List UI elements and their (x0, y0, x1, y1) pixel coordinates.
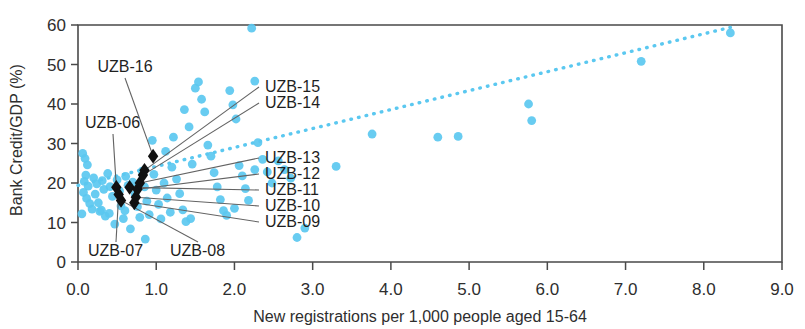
trend-line (78, 27, 730, 185)
data-point (175, 189, 184, 198)
data-point (368, 130, 377, 139)
data-point (185, 123, 194, 132)
data-point (135, 213, 144, 222)
scatter-chart: 0102030405060 0.01.02.03.04.05.06.07.08.… (0, 0, 805, 329)
annotation-uzb-08: UZB-08 (170, 242, 225, 259)
data-point (207, 152, 216, 161)
data-point (637, 57, 646, 66)
data-point (180, 105, 189, 114)
x-tick-label: 7.0 (614, 280, 638, 299)
y-tick-label: 60 (47, 16, 66, 35)
data-point (332, 162, 341, 171)
annotation-uzb-13: UZB-13 (265, 149, 320, 166)
data-point (98, 176, 107, 185)
data-point (197, 95, 206, 104)
y-tick-label: 20 (47, 174, 66, 193)
data-point (524, 100, 533, 109)
leader-line-uzb-11 (130, 187, 259, 190)
x-tick-label: 6.0 (536, 280, 560, 299)
data-point (433, 133, 442, 142)
data-point (94, 198, 103, 207)
data-point (163, 194, 172, 203)
data-point (247, 24, 256, 33)
data-point (91, 190, 100, 199)
chart-canvas: 0102030405060 0.01.02.03.04.05.06.07.08.… (0, 0, 805, 329)
data-point (167, 163, 176, 172)
y-tick-label: 10 (47, 214, 66, 233)
annotation-uzb-11: UZB-11 (265, 181, 319, 198)
annotation-uzb-06: UZB-06 (85, 114, 140, 131)
y-axis-ticks: 0102030405060 (47, 16, 78, 272)
annotation-uzb-16: UZB-16 (97, 58, 152, 75)
x-axis-ticks: 0.01.02.03.04.05.06.07.08.09.0 (66, 262, 794, 299)
data-point (105, 209, 114, 218)
leader-line-uzb-09 (134, 203, 259, 222)
data-point (210, 168, 219, 177)
y-tick-label: 0 (57, 253, 66, 272)
data-point (213, 183, 222, 192)
data-point (78, 209, 87, 218)
data-point (148, 136, 157, 145)
x-tick-label: 8.0 (692, 280, 716, 299)
annotation-uzb-15: UZB-15 (265, 78, 320, 95)
data-point (293, 233, 302, 242)
annotation-uzb-12: UZB-12 (265, 165, 320, 182)
data-point (244, 196, 253, 205)
data-point (121, 172, 130, 181)
data-point (454, 132, 463, 141)
data-point (200, 108, 209, 117)
y-axis-title: Bank Credit/GDP (%) (8, 64, 25, 216)
data-point (188, 160, 197, 169)
data-point (103, 169, 112, 178)
data-point (254, 138, 263, 147)
annotation-uzb-14: UZB-14 (265, 94, 320, 111)
data-point (225, 86, 234, 95)
annotation-uzb-07: UZB-07 (88, 242, 143, 259)
x-tick-label: 1.0 (144, 280, 168, 299)
x-tick-label: 0.0 (66, 280, 90, 299)
data-point (241, 184, 250, 193)
x-tick-label: 9.0 (770, 280, 794, 299)
trend-line-path (78, 27, 730, 185)
data-point (250, 77, 259, 86)
y-tick-label: 50 (47, 56, 66, 75)
x-tick-label: 3.0 (301, 280, 325, 299)
y-tick-label: 30 (47, 135, 66, 154)
data-point (121, 206, 130, 215)
data-point (222, 211, 231, 220)
plot-frame (78, 25, 782, 262)
x-axis-title: New registrations per 1,000 people aged … (253, 308, 587, 325)
data-points (78, 24, 735, 244)
x-tick-label: 4.0 (379, 280, 403, 299)
data-point (110, 220, 119, 229)
data-point (126, 224, 135, 233)
x-tick-label: 5.0 (457, 280, 481, 299)
data-point (203, 141, 212, 150)
data-point (83, 160, 92, 169)
x-tick-label: 2.0 (223, 280, 247, 299)
annotation-uzb-10: UZB-10 (265, 197, 320, 214)
plot-border (78, 25, 782, 262)
data-point (230, 204, 239, 213)
data-point (250, 165, 259, 174)
data-point (149, 170, 158, 179)
annotation-uzb-09: UZB-09 (265, 213, 320, 230)
annotation-labels: UZB-16UZB-06UZB-15UZB-14UZB-13UZB-12UZB-… (85, 58, 320, 259)
data-point (169, 133, 178, 142)
data-point (88, 205, 97, 214)
data-point (186, 214, 195, 223)
data-point (194, 77, 203, 86)
data-point (527, 116, 536, 125)
data-point (119, 214, 128, 223)
data-point (726, 29, 735, 38)
y-tick-label: 40 (47, 95, 66, 114)
